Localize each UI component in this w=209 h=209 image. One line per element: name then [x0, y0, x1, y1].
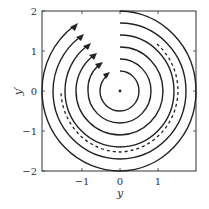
arrowheads [70, 23, 110, 79]
y-tick-label: 2 [31, 6, 37, 17]
phase-portrait-figure: −1 0 1 −2 −1 0 1 2 y y′ [0, 0, 209, 209]
x-tick-label: 1 [155, 176, 161, 187]
x-tick-label: 0 [117, 176, 123, 187]
x-axis-label: y [116, 187, 124, 200]
equilibrium-point [119, 90, 122, 93]
limit-cycle-dashed [61, 44, 178, 152]
y-tick-label: −2 [22, 166, 37, 177]
arrow-icon [70, 23, 78, 31]
y-tick-label: 0 [31, 86, 37, 97]
phase-portrait-plot: −1 0 1 −2 −1 0 1 2 y y′ [0, 0, 209, 209]
y-tick-label: −1 [22, 126, 37, 137]
y-axis-label: y′ [12, 86, 25, 96]
y-tick-label: 1 [31, 46, 37, 57]
x-tick-label: −1 [75, 176, 90, 187]
